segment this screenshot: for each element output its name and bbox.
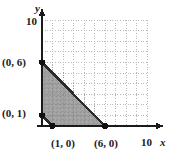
coordinate-plane-figure: y x 10 10 (0, 6) (0, 1) (1, 0) (6, 0): [0, 0, 171, 154]
vertex-marker-0-1: [39, 112, 45, 118]
x-axis-arrow: [156, 123, 164, 130]
y-axis-tick-10: 10: [26, 16, 37, 27]
vertex-marker-0-6: [39, 59, 45, 65]
y-axis-label: y: [35, 3, 40, 14]
point-label-6-0: (6, 0): [94, 138, 118, 149]
point-label-0-1: (0, 1): [2, 108, 26, 119]
x-axis-tick-10: 10: [141, 137, 152, 148]
point-label-0-6: (0, 6): [2, 57, 26, 68]
vertex-marker-6-0: [102, 123, 108, 129]
vertex-marker-1-0: [49, 123, 55, 129]
x-axis-label: x: [160, 137, 166, 148]
point-label-1-0: (1, 0): [51, 138, 75, 149]
